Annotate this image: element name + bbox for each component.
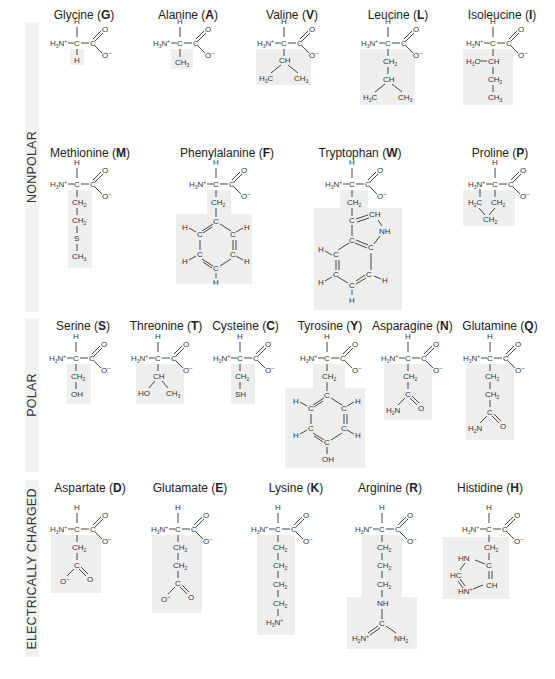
svg-text:C: C — [324, 438, 330, 447]
svg-text:H: H — [382, 276, 388, 285]
svg-text:C: C — [366, 270, 372, 279]
structure-serine: CH2 OH — [49, 332, 111, 404]
svg-text:SH: SH — [235, 390, 246, 399]
svg-text:CH: CH — [488, 57, 500, 66]
svg-text:O: O — [500, 422, 506, 431]
svg-text:H: H — [244, 223, 250, 232]
svg-text:H: H — [213, 278, 219, 287]
svg-text:CH: CH — [369, 210, 381, 219]
svg-text:C: C — [368, 243, 374, 252]
svg-text:C: C — [349, 281, 355, 290]
structure-isoleucine: H3C CH CH2 CH3 — [463, 17, 528, 105]
structure-tryptophan: CH2 C CH NH C C C C C C H H H H — [314, 158, 402, 310]
structures-layer: H H3N+ C C O O− H CH3 CH — [0, 0, 555, 679]
svg-text:OH: OH — [322, 455, 334, 464]
svg-text:C: C — [324, 391, 330, 400]
svg-text:H: H — [349, 296, 355, 305]
svg-text:H: H — [293, 431, 299, 440]
svg-text:O: O — [87, 575, 93, 584]
svg-text:H: H — [244, 257, 250, 266]
structure-alanine: CH3 — [153, 17, 215, 69]
svg-text:C: C — [333, 250, 339, 259]
svg-text:C: C — [349, 216, 355, 225]
structure-valine: CH H3C CH3 — [256, 17, 319, 85]
structure-methionine: CH2 CH2 S CH3 — [50, 158, 112, 268]
svg-text:C: C — [213, 264, 219, 273]
svg-text:OH: OH — [71, 390, 83, 399]
svg-text:C: C — [379, 619, 385, 628]
svg-text:C: C — [333, 270, 339, 279]
structure-tyrosine: CH2 C C C C C C OH H H H H — [285, 332, 365, 468]
svg-text:H: H — [355, 397, 361, 406]
svg-text:C: C — [175, 579, 181, 588]
svg-text:H: H — [293, 397, 299, 406]
structure-histidine: CH2 C HN HC HN+ CH — [443, 503, 524, 599]
structure-glutamate: CH2 CH2 C O− O — [151, 503, 213, 613]
svg-text:C: C — [197, 250, 203, 259]
svg-text:C: C — [74, 561, 80, 570]
svg-text:HO: HO — [138, 389, 150, 398]
svg-text:H: H — [318, 278, 324, 287]
svg-text:C: C — [405, 390, 411, 399]
structure-glycine: H — [50, 17, 112, 65]
structure-glutamine: CH2 CH2 C H2N O — [463, 332, 525, 440]
svg-text:C: C — [230, 250, 236, 259]
svg-text:O: O — [418, 404, 424, 413]
svg-text:C: C — [341, 424, 347, 433]
structure-asparagine: CH2 C H2N O — [381, 332, 443, 420]
svg-text:CH: CH — [383, 75, 395, 84]
svg-text:H: H — [74, 56, 80, 65]
svg-text:C: C — [197, 230, 203, 239]
svg-text:H: H — [355, 431, 361, 440]
svg-text:H: H — [182, 257, 188, 266]
svg-text:H: H — [182, 223, 188, 232]
svg-text:C: C — [487, 408, 493, 417]
svg-text:C: C — [230, 230, 236, 239]
svg-text:C: C — [349, 236, 355, 245]
structure-threonine: CH HO CH3 — [131, 332, 193, 404]
structure-arginine: CH2 CH2 CH2 NH C H2N+ NH2 — [347, 503, 417, 649]
svg-text:CH: CH — [486, 581, 498, 590]
structure-phenylalanine: CH2 C C C C C C H H H H H — [176, 158, 252, 287]
structure-proline: H2C CH2 CH2 — [463, 158, 530, 226]
svg-text:CH: CH — [153, 372, 165, 381]
structure-lysine: CH2 CH2 CH2 CH2 H3N+ — [251, 503, 313, 635]
svg-text:NH: NH — [379, 227, 391, 236]
structure-cysteine: CH2 SH — [213, 332, 275, 404]
structure-aspartate: CH2 C O− O — [50, 503, 112, 593]
svg-text:O: O — [188, 593, 194, 602]
svg-text:HC: HC — [450, 571, 462, 580]
svg-text:C: C — [486, 561, 492, 570]
svg-text:C: C — [341, 404, 347, 413]
svg-text:H: H — [318, 245, 324, 254]
svg-text:HN: HN — [458, 554, 470, 563]
svg-text:CH: CH — [279, 56, 291, 65]
svg-text:NH: NH — [377, 599, 389, 608]
svg-text:C: C — [308, 404, 314, 413]
svg-text:C: C — [308, 424, 314, 433]
svg-text:C: C — [213, 217, 219, 226]
structure-leucine: CH2 CH H3C CH3 — [360, 17, 423, 105]
svg-text:S: S — [74, 234, 79, 243]
